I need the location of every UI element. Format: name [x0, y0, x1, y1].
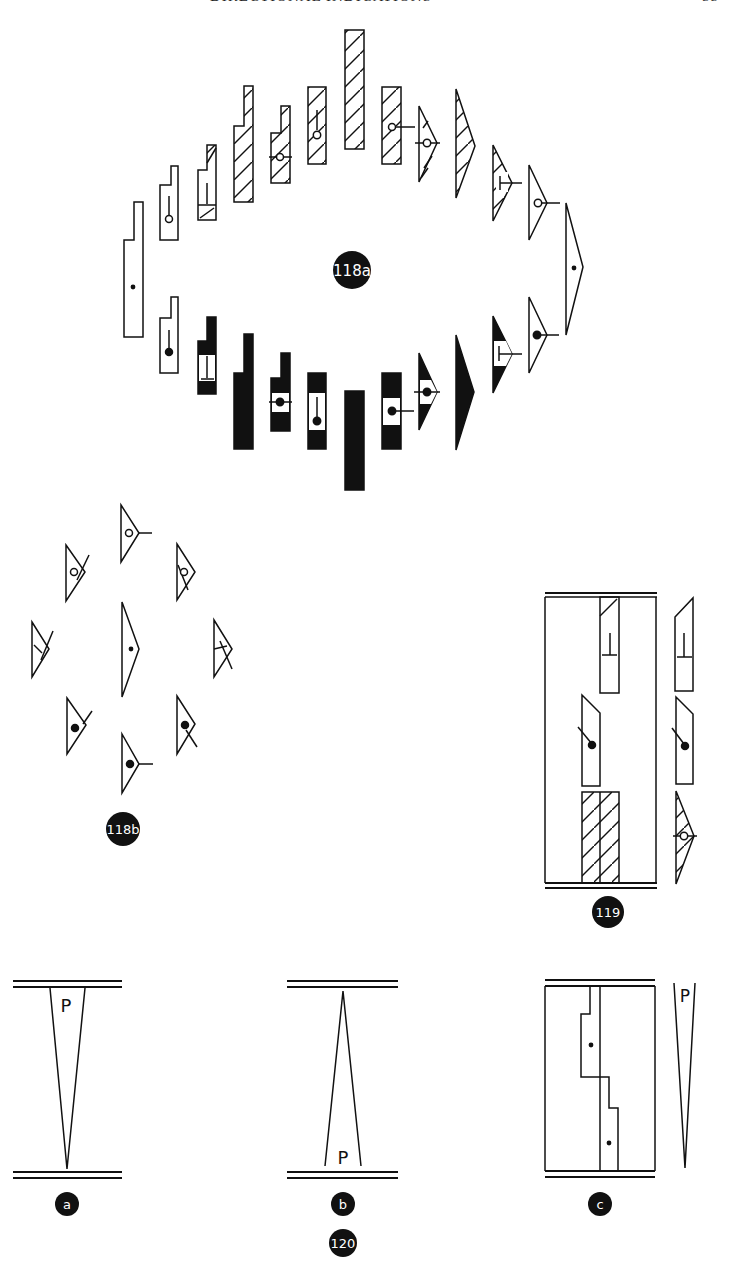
wedge-diagonal-right-forward-open	[177, 544, 195, 600]
wedge-left-t	[32, 622, 53, 677]
letter-p-c: P	[680, 986, 690, 1006]
direction-sign-diagonal-forward-right-open	[415, 106, 440, 182]
direction-sign-diagonal-backward-left-dot	[269, 353, 292, 431]
letter-p-b: P	[338, 1147, 349, 1168]
figure-label-120c: c	[588, 1192, 612, 1216]
direction-sign-backward-low	[345, 391, 364, 490]
direction-sign-diagonal-backward-right-dot	[414, 353, 440, 430]
figure-118b: 118b	[32, 505, 232, 846]
direction-sign-left-forward-high	[234, 86, 253, 202]
direction-sign-left-backward-low	[234, 334, 253, 449]
staff-sign-hatched-pair	[582, 792, 619, 883]
direction-sign-left-forward-open	[160, 166, 178, 240]
figure-label-118a-text: 118a	[333, 262, 371, 280]
figure-label-118b-text: 118b	[106, 822, 139, 837]
figure-label-119-text: 119	[596, 905, 621, 920]
figure-118a: 118a	[124, 30, 583, 490]
direction-sign-right-level-low	[566, 203, 583, 335]
side-sign-forward-t	[675, 598, 693, 691]
figure-label-120-text: 120	[331, 1236, 356, 1251]
figure-label-120a-text: a	[63, 1197, 71, 1212]
figure-label-119: 119	[592, 896, 624, 928]
direction-sign-left-backward-black-t	[198, 317, 216, 394]
side-sign-diagonal-dot	[672, 697, 693, 784]
direction-sign-right-forward-open	[529, 165, 560, 240]
figure-label-120c-text: c	[596, 1197, 603, 1212]
wedge-backward-dot	[122, 734, 153, 793]
direction-sign-backward-right-pin	[382, 373, 414, 449]
side-sign-hatched-wedge-open	[673, 791, 697, 884]
staff-sign-diagonal-dot	[578, 695, 600, 786]
figure-label-118a: 118a	[333, 251, 371, 289]
wedge-diagonal-left-backward-dot	[67, 698, 92, 754]
wedge-center-place	[122, 602, 139, 697]
direction-sign-left-backward-open-dot	[160, 297, 178, 373]
letter-p-a: P	[61, 995, 72, 1016]
wedge-forward-open	[121, 505, 152, 562]
wedge-right-t	[214, 620, 232, 677]
figure-label-118b: 118b	[106, 812, 140, 846]
direction-sign-right-low	[456, 335, 474, 450]
figure-label-120b: b	[331, 1192, 355, 1216]
direction-sign-right-forward-hatched-t	[493, 145, 522, 221]
wedge-diagonal-right-backward-dot	[177, 696, 197, 754]
figure-120a: P a	[13, 981, 122, 1216]
wedge-diagonal-left-forward-open	[66, 545, 89, 601]
direction-sign-right-backward-open-dot	[529, 297, 559, 373]
figure-label-120a: a	[55, 1192, 79, 1216]
direction-sign-forward-right-pin	[382, 87, 415, 164]
direction-sign-diagonal-forward-left-open	[269, 106, 292, 183]
direction-sign-forward-high	[345, 30, 364, 149]
figure-120c: P c	[545, 980, 695, 1216]
direction-sign-forward-left-pin	[308, 87, 326, 164]
figure-label-120b-text: b	[339, 1197, 347, 1212]
staff-sign-forward-t	[600, 597, 619, 693]
figure-119: 119	[545, 593, 697, 928]
direction-sign-backward-left-pin	[308, 373, 326, 449]
direction-sign-left-forward-hatched-t	[198, 145, 216, 220]
direction-sign-right-backward-black-t	[493, 316, 522, 393]
figure-120b: P b 120	[287, 981, 398, 1257]
direction-sign-right-high	[456, 89, 475, 198]
figure-label-120: 120	[329, 1229, 357, 1257]
direction-sign-left-level-low	[124, 202, 143, 337]
